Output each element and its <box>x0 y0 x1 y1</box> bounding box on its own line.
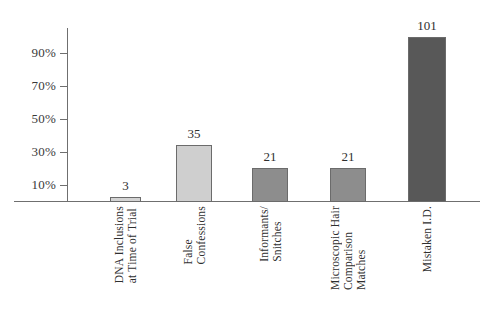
category-label-line: Confessions <box>195 206 207 264</box>
category-label-line: DNA Inclusions <box>113 206 125 283</box>
category-label: DNA Inclusionsat Time of Trial <box>113 206 139 283</box>
bar-value-label: 3 <box>122 178 129 194</box>
bars-layer <box>67 28 479 202</box>
category-label: Mistaken I.D. <box>421 206 434 272</box>
category-label: Microscopic HairComparisonMatches <box>329 206 368 290</box>
bar <box>330 168 366 202</box>
category-label-line: False <box>182 206 194 264</box>
bar <box>176 145 212 202</box>
bar-value-label: 35 <box>188 126 201 142</box>
category-label-line: Mistaken I.D. <box>421 206 433 272</box>
bar <box>252 168 288 202</box>
category-label-line: Matches <box>355 206 367 290</box>
category-label-line: at Time of Trial <box>126 206 138 283</box>
category-label: FalseConfessions <box>181 206 207 264</box>
category-label-line: Microscopic Hair <box>329 206 341 290</box>
bar-value-label: 101 <box>417 18 437 34</box>
y-axis-tick-label: 50% <box>32 111 56 127</box>
y-axis-tick-label: 90% <box>32 45 56 61</box>
bar-chart: 10%30%50%70%90% 3352121101 DNA Inclusion… <box>0 0 499 327</box>
y-axis-tick-label: 10% <box>32 177 56 193</box>
y-axis-tick-label: 30% <box>32 144 56 160</box>
category-label-line: Informants/ <box>258 206 270 262</box>
bar <box>110 197 141 202</box>
y-axis-tick-label: 70% <box>32 78 56 94</box>
bar-value-label: 21 <box>342 149 355 165</box>
bar-value-label: 21 <box>264 149 277 165</box>
category-label: Informants/Snitches <box>257 206 283 262</box>
bar <box>408 37 446 202</box>
category-label-line: Snitches <box>271 206 283 262</box>
category-label-line: Comparison <box>342 206 354 290</box>
